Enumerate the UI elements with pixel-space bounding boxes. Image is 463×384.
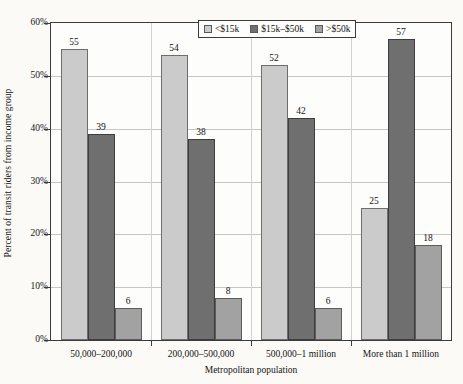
legend-item-1: $15k–$50k <box>250 24 304 34</box>
x-axis-category-label: 500,000–1 million <box>251 349 351 360</box>
bar <box>361 208 388 340</box>
y-axis-tick-mark <box>44 76 50 77</box>
legend-label-0: <$15k <box>215 24 239 34</box>
legend-label-1: $15k–$50k <box>261 24 304 34</box>
group-separator <box>251 23 252 340</box>
y-axis-tick-mark <box>44 129 50 130</box>
x-axis-tick-mark <box>151 341 152 346</box>
bar-value-label: 39 <box>82 122 121 132</box>
bar <box>288 118 315 340</box>
bar-value-label: 18 <box>409 233 448 243</box>
group-separator <box>351 23 352 340</box>
bar-value-label: 55 <box>55 37 94 47</box>
y-axis-tick-mark <box>44 23 50 24</box>
chart-figure: Percent of transit riders from income gr… <box>0 0 463 384</box>
x-axis-title: Metropolitan population <box>50 365 452 375</box>
bar-value-label: 25 <box>355 196 394 206</box>
bar <box>415 245 442 340</box>
y-axis-tick-mark <box>44 287 50 288</box>
legend-label-2: >$50k <box>326 24 350 34</box>
bar <box>88 134 115 340</box>
bar-value-label: 57 <box>382 27 421 37</box>
legend: <$15k $15k–$50k >$50k <box>198 20 356 38</box>
legend-swatch-icon-0 <box>204 25 212 33</box>
x-axis-tick-mark <box>351 341 352 346</box>
plot-area <box>50 22 452 341</box>
bar <box>115 308 142 340</box>
bar <box>188 139 215 340</box>
bar <box>388 39 415 340</box>
bar-value-label: 38 <box>182 127 221 137</box>
legend-swatch-icon-2 <box>315 25 323 33</box>
bar <box>215 298 242 340</box>
bar <box>161 55 188 340</box>
legend-swatch-icon-1 <box>250 25 258 33</box>
bar-value-label: 6 <box>109 296 148 306</box>
x-axis-category-label: 200,000–500,000 <box>151 349 251 360</box>
bar-value-label: 6 <box>309 296 348 306</box>
y-axis-tick-labels: 0%10%20%30%40%50%60% <box>12 0 48 384</box>
bar <box>315 308 342 340</box>
bar-value-label: 8 <box>209 286 248 296</box>
bar <box>61 49 88 340</box>
bar-value-label: 42 <box>282 106 321 116</box>
x-axis-category-label: 50,000–200,000 <box>51 349 151 360</box>
y-axis-tick-mark <box>44 182 50 183</box>
y-axis-tick-mark <box>44 234 50 235</box>
bar-value-label: 54 <box>155 43 194 53</box>
bar-value-label: 52 <box>255 53 294 63</box>
legend-item-0: <$15k <box>204 24 239 34</box>
legend-item-2: >$50k <box>315 24 350 34</box>
x-axis-category-label: More than 1 million <box>351 349 451 360</box>
y-axis-tick-mark <box>44 340 50 341</box>
x-axis-tick-mark <box>251 341 252 346</box>
group-separator <box>151 23 152 340</box>
